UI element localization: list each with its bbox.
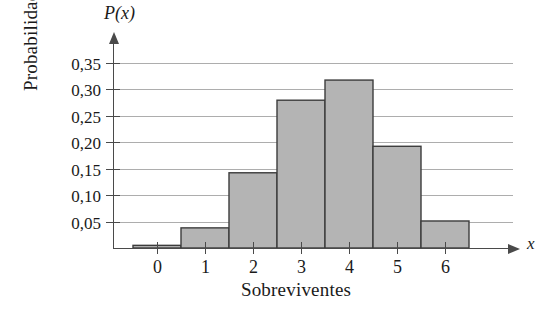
histogram-bar [325,80,373,248]
histogram-bar [229,173,277,248]
plot-area: 0,050,100,150,200,250,300,35 0123456 [0,0,554,311]
y-tick-label: 0,35 [71,55,101,74]
x-tick-label: 6 [441,257,450,277]
y-tick-labels-group: 0,050,100,150,200,250,300,35 [71,55,101,233]
x-tick-label: 2 [249,257,258,277]
x-tick-label: 3 [297,257,306,277]
x-tick-label: 4 [345,257,354,277]
value-axis-arrowhead [109,32,119,44]
y-tick-label: 0,25 [71,108,101,127]
histogram-bar [373,146,421,248]
x-tick-label: 1 [201,257,210,277]
y-tick-label: 0,10 [71,187,101,206]
y-tick-label: 0,15 [71,161,101,180]
x-tick-label: 0 [153,257,162,277]
histogram-chart: Probabilidade Sobreviventes P(x) x 0,050… [0,0,554,311]
category-axis-arrowhead [508,244,520,254]
y-tick-label: 0,20 [71,134,101,153]
y-tick-label: 0,05 [71,214,101,233]
y-tick-label: 0,30 [71,81,101,100]
histogram-bar [277,100,325,248]
x-tick-labels-group: 0123456 [153,257,450,277]
x-tick-label: 5 [393,257,402,277]
